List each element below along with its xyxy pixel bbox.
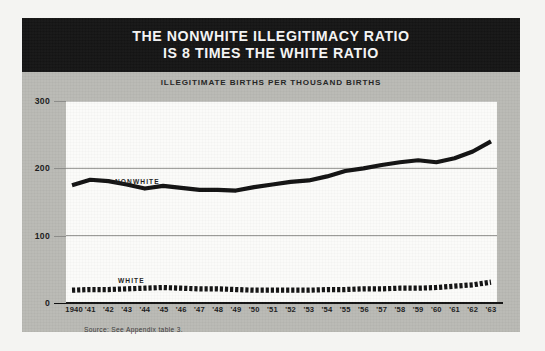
x-tick-label: '51 xyxy=(267,305,278,314)
x-tick-label: '42 xyxy=(103,305,114,314)
source-note: Source: See Appendix table 3. xyxy=(84,326,183,333)
x-tick-label: '50 xyxy=(249,305,260,314)
x-axis-baseline xyxy=(66,302,503,304)
y-tick-label: 300 xyxy=(24,96,50,106)
chart-subhead: ILLEGITIMATE BIRTHS PER THOUSAND BIRTHS xyxy=(22,78,520,87)
x-tick-label: '54 xyxy=(322,305,333,314)
x-tick-label: '43 xyxy=(121,305,132,314)
x-tick-label: '49 xyxy=(231,305,242,314)
x-tick-label: '47 xyxy=(194,305,205,314)
y-tick-mark xyxy=(54,236,66,237)
x-tick-label: '41 xyxy=(85,305,96,314)
x-tick-label: '48 xyxy=(212,305,223,314)
x-tick-label: '58 xyxy=(394,305,405,314)
x-tick-label: '59 xyxy=(413,305,424,314)
y-tick-mark xyxy=(54,168,66,169)
poster-title-line-1: THE NONWHITE ILLEGITIMACY RATIO xyxy=(132,28,409,45)
poster-page: THE NONWHITE ILLEGITIMACY RATIO IS 8 TIM… xyxy=(0,0,545,351)
x-tick-label: '60 xyxy=(431,305,442,314)
y-tick-mark xyxy=(54,303,66,304)
x-tick-label: 1940 xyxy=(65,305,83,314)
x-tick-label: '63 xyxy=(486,305,497,314)
y-tick-label: 0 xyxy=(24,298,50,308)
x-tick-label: '57 xyxy=(376,305,387,314)
x-tick-label: '61 xyxy=(449,305,460,314)
x-tick-label: '62 xyxy=(467,305,478,314)
x-axis: 1940'41'42'43'44'45'46'47'48'49'50'51'52… xyxy=(66,305,503,317)
y-tick-label: 100 xyxy=(24,231,50,241)
data-series-layer xyxy=(66,101,497,303)
title-band: THE NONWHITE ILLEGITIMACY RATIO IS 8 TIM… xyxy=(22,18,520,72)
y-tick-mark xyxy=(54,101,66,102)
x-tick-label: '52 xyxy=(285,305,296,314)
x-tick-label: '44 xyxy=(139,305,150,314)
x-tick-label: '56 xyxy=(358,305,369,314)
x-tick-label: '53 xyxy=(303,305,314,314)
chart-plate: THE NONWHITE ILLEGITIMACY RATIO IS 8 TIM… xyxy=(22,18,520,332)
x-tick-label: '46 xyxy=(176,305,187,314)
series-label-white: WHITE xyxy=(118,277,145,284)
poster-title-line-2: IS 8 TIMES THE WHITE RATIO xyxy=(163,45,379,62)
plot-area xyxy=(66,101,497,303)
series-label-nonwhite: NONWHITE xyxy=(115,178,160,185)
y-tick-label: 200 xyxy=(24,163,50,173)
x-tick-label: '55 xyxy=(340,305,351,314)
x-tick-label: '45 xyxy=(158,305,169,314)
